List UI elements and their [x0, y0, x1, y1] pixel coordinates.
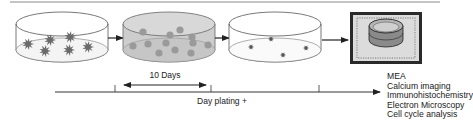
method-item: Cell cycle analysis — [387, 110, 473, 120]
sphere — [144, 40, 151, 47]
sphere — [162, 39, 169, 46]
sphere — [155, 49, 162, 56]
dish-1 — [16, 12, 108, 62]
sphere — [171, 46, 178, 53]
duration-label: 10 Days — [149, 70, 180, 80]
sphere — [188, 33, 195, 40]
sphere — [176, 26, 183, 33]
timeline-label: Day plating + — [197, 96, 247, 106]
mea-ring-hole — [373, 22, 399, 32]
sphere — [166, 31, 173, 38]
dish-3 — [229, 12, 321, 62]
sphere — [139, 28, 146, 35]
sphere — [204, 41, 211, 48]
sphere — [129, 42, 136, 49]
dish-2 — [123, 12, 215, 62]
sphere — [187, 49, 194, 56]
mea-chip — [350, 12, 422, 64]
analysis-methods-list: MEA Calcium imaging Immunohistochemistry… — [387, 72, 473, 120]
sphere — [189, 39, 196, 46]
